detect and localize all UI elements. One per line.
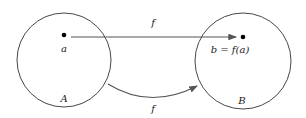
set-a-label: A <box>59 93 67 104</box>
set-b-label: B <box>237 95 245 106</box>
function-mapping-diagram: a A b = f(a) B f f <box>0 0 306 118</box>
curved-arrow <box>108 84 197 98</box>
element-a-label: a <box>61 43 67 54</box>
arrow-f-label-top: f <box>150 17 157 28</box>
set-b: b = f(a) B <box>195 13 291 109</box>
arrow-element-mapping: f <box>71 17 236 37</box>
element-b-label: b = f(a) <box>211 44 250 55</box>
element-a-dot <box>62 33 67 38</box>
set-a: a A <box>17 13 111 107</box>
arrow-f-label-bottom: f <box>150 103 157 114</box>
element-b-dot <box>241 35 246 40</box>
arrow-set-mapping: f <box>108 84 197 114</box>
